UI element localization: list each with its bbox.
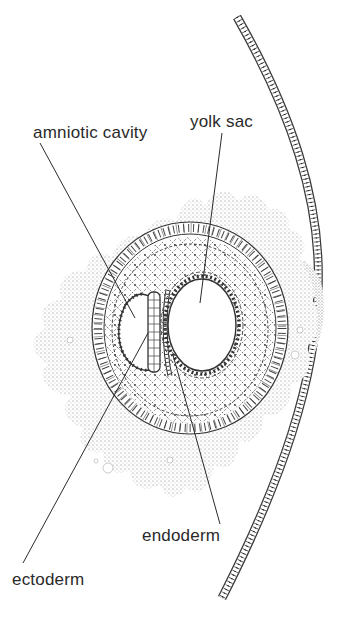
diagram-canvas: amniotic cavity yolk sac endoderm ectode… bbox=[0, 0, 351, 636]
label-endoderm: endoderm bbox=[142, 527, 220, 544]
label-amniotic-cavity: amniotic cavity bbox=[33, 124, 147, 141]
label-ectoderm: ectoderm bbox=[12, 571, 84, 588]
label-yolk-sac: yolk sac bbox=[190, 113, 253, 130]
